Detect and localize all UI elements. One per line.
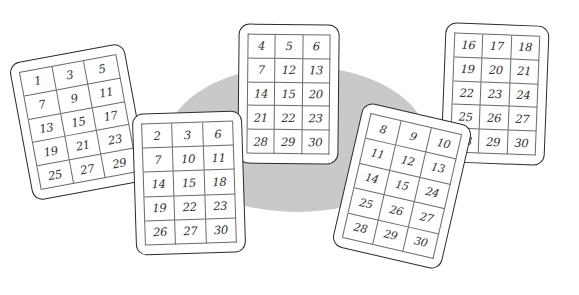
number-grid: 4 5 6 7 12 13 14 15 20 21 22 23 28 29 30 <box>246 34 330 155</box>
grid-cell: 3 <box>172 123 203 148</box>
grid-cell: 6 <box>303 35 331 59</box>
number-card-1[interactable]: 1 3 5 7 9 11 13 15 17 19 21 23 25 27 29 <box>8 43 149 202</box>
illustration-canvas: 1 3 5 7 9 11 13 15 17 19 21 23 25 27 29 … <box>0 0 579 295</box>
grid-cell: 30 <box>206 218 237 243</box>
grid-cell: 22 <box>175 195 206 220</box>
grid-cell: 23 <box>481 82 510 107</box>
grid-cell: 16 <box>454 33 483 58</box>
grid-cell: 23 <box>205 194 236 219</box>
number-card-2[interactable]: 2 3 6 7 10 11 14 15 18 19 22 23 26 27 30 <box>132 110 246 255</box>
grid-cell: 19 <box>144 196 175 221</box>
grid-cell: 7 <box>248 58 276 82</box>
grid-cell: 23 <box>302 107 330 131</box>
grid-cell: 15 <box>174 171 205 196</box>
grid-cell: 4 <box>248 35 276 59</box>
grid-cell: 27 <box>508 107 537 132</box>
grid-cell: 27 <box>70 155 106 184</box>
grid-cell: 11 <box>204 146 235 171</box>
grid-cell: 30 <box>403 227 439 259</box>
grid-cell: 14 <box>144 172 175 197</box>
grid-cell: 15 <box>275 82 303 106</box>
grid-cell: 6 <box>203 122 234 147</box>
grid-cell: 14 <box>248 82 276 106</box>
grid-cell: 30 <box>507 131 536 156</box>
grid-cell: 5 <box>276 35 304 59</box>
grid-cell: 24 <box>509 83 538 108</box>
number-card-3[interactable]: 4 5 6 7 12 13 14 15 20 21 22 23 28 29 30 <box>237 23 339 164</box>
grid-cell: 20 <box>303 83 331 107</box>
grid-cell: 18 <box>204 170 235 195</box>
grid-cell: 26 <box>480 106 509 131</box>
grid-cell: 18 <box>511 36 540 61</box>
grid-cell: 28 <box>247 130 275 154</box>
grid-cell: 10 <box>173 147 204 172</box>
grid-cell: 12 <box>275 59 303 83</box>
grid-cell: 21 <box>510 59 539 84</box>
grid-cell: 29 <box>275 130 303 154</box>
grid-cell: 2 <box>142 123 173 148</box>
grid-cell: 25 <box>37 160 73 189</box>
grid-cell: 30 <box>302 130 330 154</box>
grid-cell: 17 <box>483 35 512 60</box>
grid-cell: 22 <box>453 81 482 106</box>
grid-cell: 7 <box>143 148 174 173</box>
grid-cell: 26 <box>145 220 176 245</box>
grid-cell: 22 <box>275 106 303 130</box>
number-grid: 2 3 6 7 10 11 14 15 18 19 22 23 26 27 30 <box>141 121 237 246</box>
number-grid: 1 3 5 7 9 11 13 15 17 19 21 23 25 27 29 <box>19 54 138 190</box>
grid-cell: 19 <box>453 57 482 82</box>
grid-cell: 27 <box>175 219 206 244</box>
number-grid: 8 9 10 11 12 13 14 15 24 25 26 27 28 29 … <box>342 113 462 259</box>
grid-cell: 13 <box>303 59 331 83</box>
grid-cell: 21 <box>248 106 276 130</box>
grid-cell: 29 <box>479 130 508 155</box>
grid-cell: 20 <box>482 58 511 83</box>
